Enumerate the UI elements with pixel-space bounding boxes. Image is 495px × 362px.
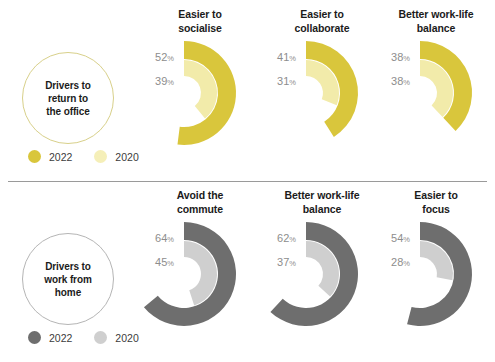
chart-title: Better work-lifebalance xyxy=(376,8,495,35)
chart-home-1: Better work-lifebalance62%37% xyxy=(262,181,382,362)
home-label-circle: Drivers to work from home xyxy=(22,233,114,325)
legend-item-2020: 2020 xyxy=(94,331,138,344)
legend-item-2022: 2022 xyxy=(28,150,72,163)
legend-label-2020: 2020 xyxy=(115,151,138,163)
chart-home-0: Avoid thecommute64%45% xyxy=(140,181,260,362)
gauge-svg xyxy=(168,38,260,148)
value-number: 31 xyxy=(277,75,289,87)
legend-dot-2022 xyxy=(28,150,41,163)
office-side-panel: Drivers to return to the office 2022 202… xyxy=(14,0,132,181)
gauge: 64%45% xyxy=(140,219,260,339)
gauge: 52%39% xyxy=(140,38,260,158)
gauge-svg xyxy=(290,38,382,148)
home-label-line-2: work from xyxy=(44,273,91,286)
chart-title: Avoid thecommute xyxy=(140,189,260,216)
value-number: 38 xyxy=(391,75,403,87)
chart-title-line-2: focus xyxy=(376,203,495,217)
chart-title-line-1: Easier to xyxy=(140,8,260,22)
home-side-panel: Drivers to work from home 2022 2020 xyxy=(14,181,132,362)
office-label-circle: Drivers to return to the office xyxy=(22,52,114,144)
value-number: 39 xyxy=(155,75,167,87)
chart-title-line-2: socialise xyxy=(140,22,260,36)
legend-dot-2022 xyxy=(28,331,41,344)
chart-office-0: Easier tosocialise52%39% xyxy=(140,0,260,181)
value-number: 45 xyxy=(155,256,167,268)
gauge: 38%38% xyxy=(376,38,495,158)
gauge: 62%37% xyxy=(262,219,382,339)
value-number: 54 xyxy=(391,232,403,244)
value-number: 37 xyxy=(277,256,289,268)
legend-item-2020: 2020 xyxy=(94,150,138,163)
chart-title: Better work-lifebalance xyxy=(262,189,382,216)
chart-title-line-1: Easier to xyxy=(262,8,382,22)
gauge-svg xyxy=(404,38,495,148)
value-number: 52 xyxy=(155,51,167,63)
chart-title-line-2: balance xyxy=(376,22,495,36)
chart-title-line-2: collaborate xyxy=(262,22,382,36)
chart-title-line-1: Better work-life xyxy=(262,189,382,203)
value-number: 62 xyxy=(277,232,289,244)
value-number: 64 xyxy=(155,232,167,244)
legend-label-2020: 2020 xyxy=(115,332,138,344)
gauge-svg xyxy=(290,219,382,329)
value-number: 38 xyxy=(391,51,403,63)
legend-dot-2020 xyxy=(94,331,107,344)
office-label-line-1: Drivers to xyxy=(45,79,91,92)
office-label-line-2: return to xyxy=(45,92,91,105)
gauge: 54%28% xyxy=(376,219,495,339)
chart-title-line-1: Avoid the xyxy=(140,189,260,203)
home-label-line-3: home xyxy=(44,286,91,299)
gauge-svg xyxy=(168,219,260,329)
office-label-line-3: the office xyxy=(45,105,91,118)
legend-label-2022: 2022 xyxy=(49,151,72,163)
chart-title: Easier tosocialise xyxy=(140,8,260,35)
chart-title-line-1: Better work-life xyxy=(376,8,495,22)
gauge: 41%31% xyxy=(262,38,382,158)
legend-item-2022: 2022 xyxy=(28,331,72,344)
chart-office-2: Better work-lifebalance38%38% xyxy=(376,0,495,181)
section-home: Drivers to work from home 2022 2020 Avoi… xyxy=(0,181,495,362)
legend-label-2022: 2022 xyxy=(49,332,72,344)
chart-office-1: Easier tocollaborate41%31% xyxy=(262,0,382,181)
chart-title-line-2: balance xyxy=(262,203,382,217)
value-number: 41 xyxy=(277,51,289,63)
chart-title-line-1: Easier to xyxy=(376,189,495,203)
chart-title-line-2: commute xyxy=(140,203,260,217)
chart-title: Easier tocollaborate xyxy=(262,8,382,35)
legend-dot-2020 xyxy=(94,150,107,163)
chart-title: Easier tofocus xyxy=(376,189,495,216)
gauge-svg xyxy=(404,219,495,329)
home-label-line-1: Drivers to xyxy=(44,260,91,273)
value-number: 28 xyxy=(391,256,403,268)
section-office: Drivers to return to the office 2022 202… xyxy=(0,0,495,181)
chart-home-2: Easier tofocus54%28% xyxy=(376,181,495,362)
